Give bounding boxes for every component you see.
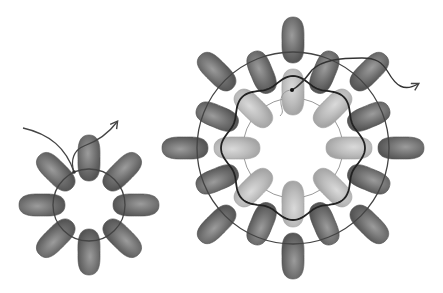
bead [32, 214, 80, 262]
middle-bead [306, 199, 343, 248]
middle-bead [306, 48, 343, 97]
outer-bead [345, 200, 393, 248]
middle-bead [344, 161, 393, 198]
bead [98, 214, 146, 262]
middle-bead [243, 199, 280, 248]
small-bead-ring [19, 122, 159, 275]
large-bead-ring [162, 17, 424, 279]
bead [98, 148, 146, 196]
middle-bead [344, 98, 393, 135]
middle-bead [193, 161, 242, 198]
middle-bead [193, 98, 242, 135]
beading-diagram [0, 0, 443, 293]
outer-bead [345, 48, 393, 96]
middle-bead [243, 48, 280, 97]
outer-bead [193, 48, 241, 96]
outer-bead [193, 200, 241, 248]
outer-bead [378, 137, 424, 159]
diagram-canvas [0, 0, 443, 293]
bead [19, 194, 65, 216]
bead [78, 229, 100, 275]
bead [78, 135, 100, 181]
bead [113, 194, 159, 216]
outer-bead [162, 137, 208, 159]
outer-bead [282, 233, 304, 279]
thread-knot [290, 88, 294, 92]
outer-bead [282, 17, 304, 63]
thread-knot [72, 170, 76, 174]
